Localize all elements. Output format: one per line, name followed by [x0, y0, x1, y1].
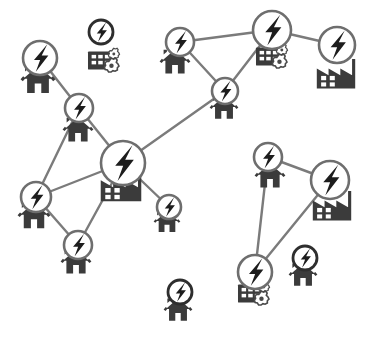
substation-node[interactable] [238, 255, 272, 289]
substation-node[interactable] [319, 27, 355, 63]
substation-node[interactable] [253, 11, 291, 49]
substation-node[interactable] [157, 195, 181, 219]
substation-node[interactable] [311, 161, 349, 199]
substation-node[interactable] [212, 78, 238, 104]
substation-node[interactable] [293, 246, 317, 270]
substation-node[interactable] [65, 94, 93, 122]
network-diagram-canvas [0, 0, 367, 349]
substation-node[interactable] [21, 182, 51, 212]
substation-node[interactable] [101, 141, 145, 185]
substation-node[interactable] [64, 231, 92, 259]
substation-node[interactable] [166, 28, 194, 56]
plant-icon [88, 48, 120, 72]
substation-node[interactable] [254, 143, 282, 171]
substation-node[interactable] [23, 41, 57, 75]
substation-node[interactable] [168, 280, 192, 304]
substation-node[interactable] [89, 20, 113, 44]
power-grid-graph [0, 0, 367, 349]
loads-layer [18, 44, 356, 320]
